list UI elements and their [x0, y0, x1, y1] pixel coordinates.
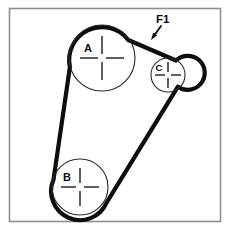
diagram-canvas: A B C [0, 0, 232, 234]
f1-label: F1 [156, 13, 170, 25]
pulley-b-label: B [63, 171, 71, 183]
belt-drive-figure: A B C [0, 0, 232, 234]
pulley-c-label: C [156, 62, 163, 73]
pulley-a-label: A [84, 42, 92, 54]
